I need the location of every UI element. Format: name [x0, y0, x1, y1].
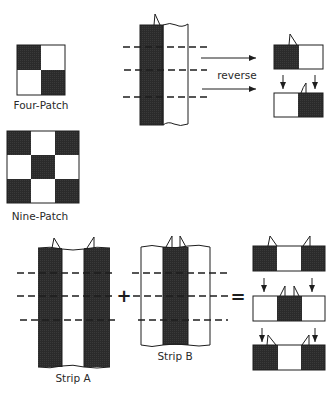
nine-patch-block	[7, 131, 79, 203]
strip-a	[17, 237, 116, 368]
reverse-label: reverse	[217, 69, 256, 81]
seam-allowance-icon	[268, 236, 277, 246]
reversed-pair-bottom	[274, 83, 323, 117]
strip-b	[132, 236, 228, 347]
seam-allowance-icon	[303, 236, 310, 246]
seam-allowance-icon	[301, 83, 306, 93]
seam-allowance-icon	[154, 14, 160, 25]
strip-a-label: Strip A	[55, 372, 91, 384]
seam-allowance-icon	[52, 238, 60, 248]
seam-allowance-icon	[280, 286, 285, 296]
seam-allowance-icon	[87, 237, 94, 248]
strip-b-label: Strip B	[157, 350, 192, 362]
seam-allowance-icon	[166, 236, 172, 247]
result-row-3	[253, 335, 325, 370]
quilt-diagram: Four-Patch Nine-Patch reverse	[0, 0, 334, 394]
two-strip-set	[123, 14, 207, 126]
seam-allowance-icon	[294, 286, 299, 296]
seam-allowance-icon	[267, 335, 276, 345]
equals-sign: =	[230, 286, 245, 307]
seam-allowance-icon	[180, 236, 186, 247]
plus-sign: +	[116, 285, 131, 306]
four-patch-block	[17, 45, 65, 95]
seam-allowance-icon	[302, 335, 309, 345]
seam-allowance-icon	[289, 34, 297, 45]
nine-patch-label: Nine-Patch	[12, 210, 69, 222]
result-row-1	[253, 236, 325, 271]
four-patch-label: Four-Patch	[13, 99, 68, 111]
reversed-pair-top	[274, 34, 323, 69]
